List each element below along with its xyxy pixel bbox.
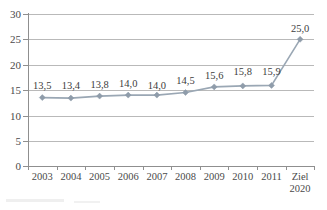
x-tick-mark [143,166,144,170]
y-tick-label-0: 0 [0,161,21,172]
data-label: 15,9 [252,66,292,77]
gridline-25 [28,39,314,40]
x-tick-mark [200,166,201,170]
x-tick-mark [114,166,115,170]
line-chart: 30 25 20 15 10 5 0 [0,0,327,210]
scan-artifact [6,199,64,202]
y-tick-label-5: 5 [0,136,21,147]
x-axis-label-ziel-2020: Ziel 2020 [278,171,322,195]
gridline-10 [28,116,314,117]
x-axis-label-line2: 2020 [278,183,322,195]
y-tick-label-25: 25 [0,34,21,45]
gridline-5 [28,141,314,142]
y-tick-label-10: 10 [0,111,21,122]
x-tick-mark [57,166,58,170]
x-tick-mark [314,166,315,170]
x-tick-mark [28,166,29,170]
scan-artifact [74,201,100,203]
x-tick-mark [228,166,229,170]
data-label: 25,0 [280,23,320,34]
y-tick-label-15: 15 [0,85,21,96]
x-tick-mark [171,166,172,170]
x-axis-label-line1: Ziel [292,171,309,182]
x-tick-mark [286,166,287,170]
x-tick-mark [85,166,86,170]
y-tick-label-20: 20 [0,60,21,71]
gridline-30 [28,14,314,15]
x-tick-mark [257,166,258,170]
y-tick-label-30: 30 [0,9,21,20]
